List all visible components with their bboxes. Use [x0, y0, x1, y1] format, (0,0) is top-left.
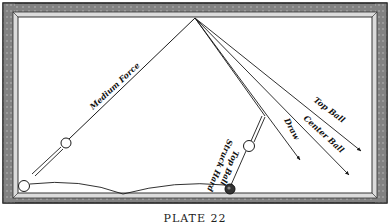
cue-ball-struck-hard	[244, 141, 255, 152]
figure-caption: PLATE 22	[0, 212, 390, 224]
billiard-diagram: Medium Force Top Ball Struck Hard Draw C…	[0, 0, 390, 224]
ball-lower-left	[19, 181, 30, 192]
cue-ball-medium	[61, 138, 71, 148]
